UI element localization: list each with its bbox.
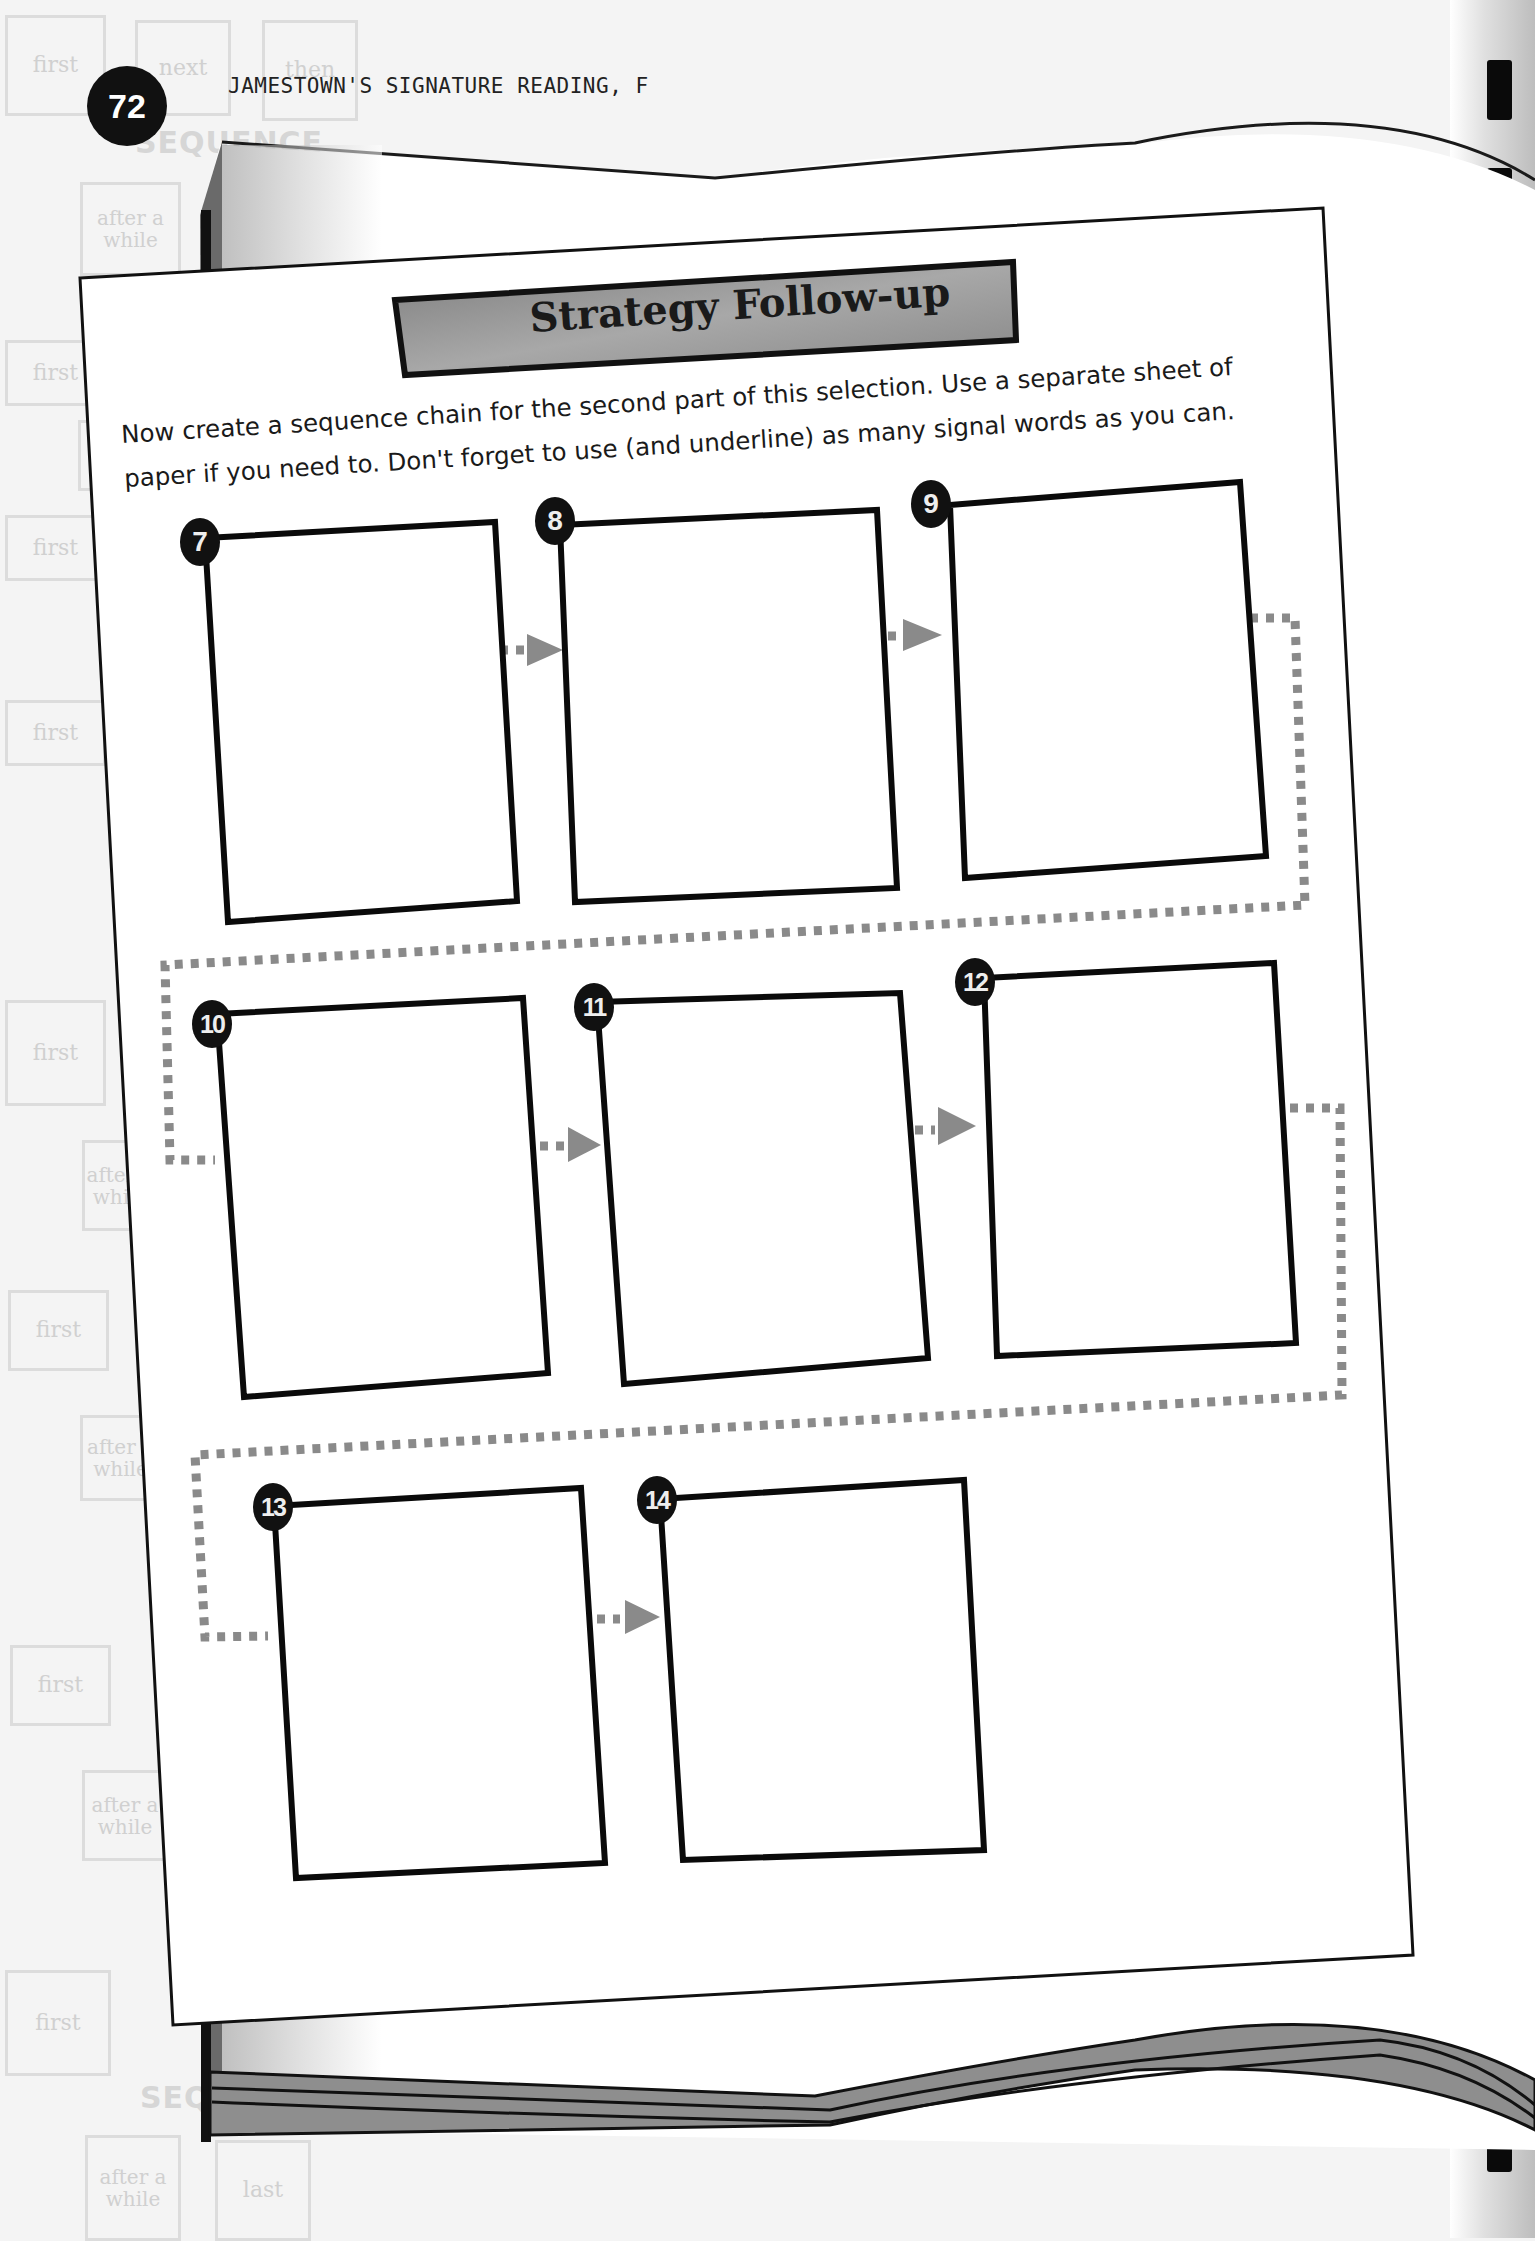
- answer-box-10[interactable]: [230, 1015, 530, 1375]
- answer-box-14[interactable]: [675, 1495, 970, 1850]
- answer-box-12[interactable]: [995, 980, 1280, 1340]
- step-badge-14: 14: [637, 1476, 677, 1524]
- step-badge-9: 9: [911, 480, 951, 528]
- answer-box-7[interactable]: [220, 540, 500, 900]
- step-badge-8: 8: [535, 497, 575, 545]
- answer-box-9[interactable]: [960, 500, 1250, 860]
- answer-box-13[interactable]: [285, 1505, 585, 1860]
- step-badge-13: 13: [253, 1483, 293, 1531]
- step-badge-12: 12: [955, 958, 995, 1006]
- step-badge-11: 11: [574, 983, 614, 1031]
- answer-box-8[interactable]: [570, 525, 880, 890]
- step-badge-10: 10: [192, 1000, 232, 1048]
- answer-box-11[interactable]: [610, 1005, 910, 1365]
- step-badge-7: 7: [180, 518, 220, 566]
